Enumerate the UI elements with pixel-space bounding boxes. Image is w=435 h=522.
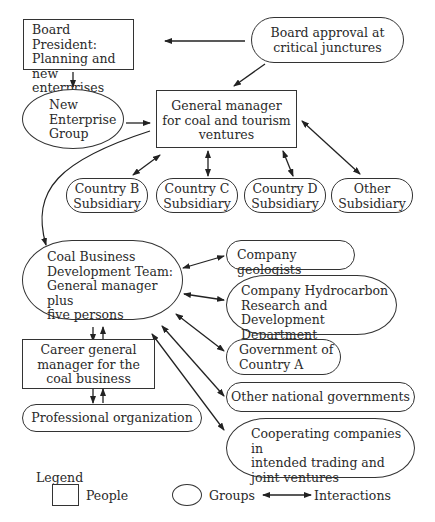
edge-coal-hydrocarbon: [184, 294, 224, 300]
legend-groups-swatch: [172, 484, 202, 506]
node-company-geologists: Company geologists: [226, 240, 355, 270]
node-label: Professional organization: [23, 411, 201, 426]
node-cooperating-companies: Cooperating companies in intended tradin…: [226, 418, 415, 478]
edge-coal-othergovs: [162, 326, 224, 396]
node-government-country-a: Government of Country A: [226, 339, 341, 375]
node-professional-organization: Professional organization: [22, 404, 202, 432]
node-board-president: Board President: Planning and new enterp…: [23, 19, 134, 70]
node-hydrocarbon-rd: Company Hydrocarbon Research and Develop…: [226, 275, 397, 335]
edge-gm-countryd: [283, 151, 293, 176]
node-label: Coal Business Development Team: General …: [47, 250, 182, 323]
node-label: Company geologists: [237, 248, 354, 277]
node-label: Board President: Planning and new enterp…: [32, 23, 133, 96]
node-country-b: Country B Subsidiary: [66, 178, 148, 213]
legend-people-label: People: [86, 488, 128, 503]
legend-groups-label: Groups: [209, 488, 255, 503]
node-label: Other Subsidiary: [332, 182, 412, 211]
legend-interactions-label: Interactions: [314, 488, 391, 503]
node-other-national-governments: Other national governments: [226, 382, 415, 412]
edge-gm-other: [302, 121, 360, 174]
node-general-manager: General manager for coal and tourism ven…: [156, 90, 297, 148]
node-label: General manager for coal and tourism ven…: [157, 99, 296, 143]
node-country-c: Country C Subsidiary: [156, 178, 238, 213]
node-label: Country B Subsidiary: [67, 182, 147, 211]
node-coal-business-team: Coal Business Development Team: General …: [22, 240, 183, 320]
edge-coal-gova: [176, 314, 224, 351]
node-label: Cooperating companies in intended tradin…: [251, 427, 414, 485]
edge-approval-gm: [234, 64, 265, 86]
legend-title: Legend: [36, 470, 83, 485]
edge-coal-geologists: [183, 256, 224, 268]
node-label: Career general manager for the coal busi…: [23, 343, 154, 387]
node-career-general-manager: Career general manager for the coal busi…: [22, 339, 155, 389]
legend-people-swatch: [52, 484, 79, 506]
node-other-subsidiary: Other Subsidiary: [331, 178, 413, 213]
edge-gm-countryb: [133, 155, 160, 175]
node-country-d: Country D Subsidiary: [244, 178, 326, 213]
node-label: Country C Subsidiary: [157, 182, 237, 211]
node-label: Country D Subsidiary: [245, 182, 325, 211]
node-board-approval: Board approval at critical junctures: [251, 17, 404, 63]
node-label: Company Hydrocarbon Research and Develop…: [241, 284, 396, 342]
node-label: Government of Country A: [239, 343, 333, 372]
node-new-enterprise-group: New Enterprise Group: [22, 89, 124, 149]
node-label: New Enterprise Group: [49, 98, 116, 142]
node-label: Board approval at critical junctures: [252, 26, 403, 55]
node-label: Other national governments: [227, 390, 414, 405]
